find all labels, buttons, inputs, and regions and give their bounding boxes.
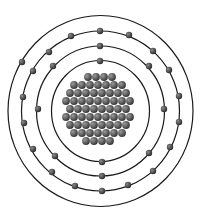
nucleon-icon — [98, 121, 106, 129]
nucleon-icon — [118, 97, 126, 105]
nucleon-icon — [78, 97, 86, 105]
nucleon-icon — [94, 129, 102, 137]
nucleon-icon — [94, 113, 102, 121]
nucleon-icon — [70, 129, 78, 137]
electron-icon — [150, 168, 156, 174]
nucleon-icon — [86, 81, 94, 89]
electron-icon — [97, 58, 103, 64]
nucleon-icon — [110, 113, 118, 121]
electron-icon — [125, 182, 131, 188]
nucleon-icon — [90, 121, 98, 129]
nucleon-icon — [94, 97, 102, 105]
nucleon-icon — [74, 121, 82, 129]
nucleon-icon — [102, 113, 110, 121]
electron-icon — [30, 146, 36, 152]
electron-icon — [99, 173, 105, 179]
electron-icon — [50, 63, 56, 69]
electron-icon — [49, 169, 55, 175]
nucleon-icon — [74, 105, 82, 113]
electron-icon — [150, 48, 156, 54]
electron-icon — [35, 106, 41, 112]
nucleon-icon — [66, 89, 74, 97]
electron-icon — [166, 67, 172, 73]
electron-icon — [176, 119, 182, 125]
nucleon-icon — [122, 89, 130, 97]
nucleon-icon — [74, 89, 82, 97]
nucleon-icon — [78, 113, 86, 121]
electron-icon — [146, 63, 152, 69]
nucleon-icon — [82, 137, 90, 145]
nucleon-icon — [126, 97, 134, 105]
electron-icon — [161, 106, 167, 112]
nucleon-icon — [70, 97, 78, 105]
nucleon-icon — [110, 81, 118, 89]
nucleon-icon — [122, 121, 130, 129]
electron-icon — [72, 183, 78, 189]
nucleon-icon — [106, 121, 114, 129]
electron-icon — [30, 68, 36, 74]
nucleon-icon — [70, 113, 78, 121]
nucleon-icon — [98, 105, 106, 113]
electron-icon — [20, 94, 26, 100]
nucleon-icon — [90, 105, 98, 113]
electron-icon — [46, 49, 52, 55]
electron-icon — [167, 144, 173, 150]
nucleon-icon — [94, 81, 102, 89]
bohr-model-svg — [0, 0, 207, 216]
nucleon-icon — [102, 97, 110, 105]
nucleon-icon — [114, 121, 122, 129]
nucleon-icon — [102, 129, 110, 137]
electron-icon — [99, 188, 105, 194]
nucleon-icon — [92, 73, 100, 81]
nucleon-icon — [118, 113, 126, 121]
nucleon-icon — [82, 105, 90, 113]
nucleon-icon — [114, 105, 122, 113]
nucleon-icon — [66, 121, 74, 129]
nucleon-icon — [100, 73, 108, 81]
nucleon-icon — [108, 73, 116, 81]
nucleon-icon — [78, 129, 86, 137]
nucleon-icon — [82, 89, 90, 97]
electron-icon — [21, 120, 27, 126]
nucleus — [62, 73, 134, 145]
electron-icon — [176, 93, 182, 99]
nucleon-icon — [84, 73, 92, 81]
electron-icon — [19, 59, 25, 65]
nucleon-icon — [86, 113, 94, 121]
nucleon-icon — [90, 89, 98, 97]
nucleon-icon — [118, 81, 126, 89]
nucleon-icon — [82, 121, 90, 129]
nucleon-icon — [102, 81, 110, 89]
nucleon-icon — [90, 137, 98, 145]
nucleon-icon — [106, 105, 114, 113]
nucleon-icon — [86, 129, 94, 137]
electron-icon — [52, 153, 58, 159]
electron-icon — [99, 159, 105, 165]
nucleon-icon — [118, 129, 126, 137]
electron-icon — [97, 43, 103, 49]
nucleon-icon — [78, 81, 86, 89]
nucleon-icon — [86, 97, 94, 105]
nucleon-icon — [70, 81, 78, 89]
nucleon-icon — [106, 137, 114, 145]
nucleon-icon — [62, 113, 70, 121]
electron-icon — [68, 33, 74, 39]
electron-icon — [126, 32, 132, 38]
nucleon-icon — [110, 129, 118, 137]
nucleon-icon — [122, 105, 130, 113]
nucleon-icon — [126, 113, 134, 121]
nucleon-icon — [98, 89, 106, 97]
nucleon-icon — [66, 105, 74, 113]
nucleon-icon — [114, 89, 122, 97]
nucleon-icon — [106, 89, 114, 97]
atom-diagram — [0, 0, 207, 216]
electron-icon — [97, 28, 103, 34]
nucleon-icon — [98, 137, 106, 145]
electron-icon — [146, 150, 152, 156]
nucleon-icon — [110, 97, 118, 105]
nucleon-icon — [62, 97, 70, 105]
